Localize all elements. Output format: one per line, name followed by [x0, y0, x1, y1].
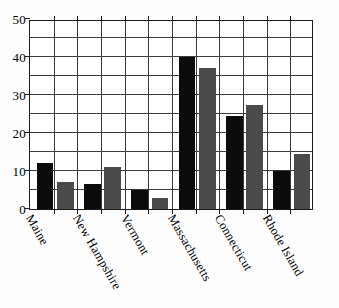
x-tick-label: Vermont: [117, 212, 152, 258]
plot-area: [29, 20, 313, 210]
bar: [273, 171, 290, 209]
gridline-vertical: [172, 21, 173, 209]
x-tick-label: New Hampshire: [69, 212, 124, 292]
y-tick-mark: [25, 56, 30, 57]
bar: [57, 182, 74, 209]
y-tick-mark: [25, 170, 30, 171]
bar: [179, 57, 196, 209]
gridline-horizontal: [30, 37, 312, 38]
x-tick-mark: [125, 16, 126, 21]
gridline-horizontal: [30, 113, 312, 114]
gridline-vertical: [101, 21, 102, 209]
x-tick-mark: [148, 16, 149, 21]
y-tick-label: 30: [13, 88, 26, 104]
gridline-vertical: [125, 21, 126, 209]
bar: [226, 116, 243, 209]
gridline-vertical: [219, 21, 220, 209]
x-tick-mark: [267, 16, 268, 21]
gridline-vertical: [290, 21, 291, 209]
x-tick-mark: [54, 16, 55, 21]
x-tick-mark: [172, 16, 173, 21]
bar: [104, 167, 121, 209]
gridline-horizontal: [30, 132, 312, 133]
gridline-vertical: [148, 21, 149, 209]
x-tick-mark: [101, 16, 102, 21]
y-tick-mark: [25, 94, 30, 95]
x-tick-mark: [290, 16, 291, 21]
bar: [152, 198, 169, 209]
bar: [84, 184, 101, 209]
bar: [199, 68, 216, 209]
x-tick-mark: [219, 16, 220, 21]
gridline-horizontal: [30, 94, 312, 95]
gridline-horizontal: [30, 56, 312, 57]
gridline-vertical: [196, 21, 197, 209]
x-tick-label: Rhode Island: [259, 212, 306, 279]
bar-chart: 01020304050 MaineNew HampshireVermontMas…: [0, 0, 339, 308]
y-tick-label: 50: [13, 12, 26, 28]
x-tick-mark: [243, 16, 244, 21]
y-tick-mark: [25, 208, 30, 209]
x-tick-mark: [196, 16, 197, 21]
bar: [294, 154, 311, 209]
gridline-vertical: [77, 21, 78, 209]
gridline-vertical: [54, 21, 55, 209]
bar: [246, 105, 263, 210]
gridline-horizontal: [30, 75, 312, 76]
bar: [37, 163, 54, 209]
gridline-vertical: [267, 21, 268, 209]
gridline-horizontal: [30, 151, 312, 152]
y-axis: 01020304050: [0, 20, 26, 210]
y-tick-label: 40: [13, 50, 26, 66]
x-tick-mark: [77, 16, 78, 21]
x-tick-label: Maine: [22, 212, 51, 248]
bar: [131, 190, 148, 209]
gridline-horizontal: [30, 170, 312, 171]
y-tick-label: 20: [13, 126, 26, 142]
y-tick-label: 10: [13, 164, 26, 180]
y-tick-mark: [25, 132, 30, 133]
x-tick-label: Connecticut: [211, 212, 255, 274]
y-tick-mark: [25, 18, 30, 19]
gridline-vertical: [243, 21, 244, 209]
x-axis: MaineNew HampshireVermontMassachusettsCo…: [0, 212, 339, 308]
x-tick-label: Massachusetts: [164, 212, 214, 284]
